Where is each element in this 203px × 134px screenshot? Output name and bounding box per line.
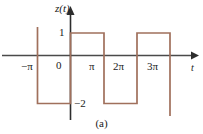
x-tick-label-two-pi: 2π (113, 61, 124, 72)
waveform-polyline (38, 33, 171, 116)
x-tick-label-three-pi: 3π (147, 61, 158, 72)
x-tick-label-minus-pi: −π (21, 61, 33, 72)
x-tick-label-zero: 0 (56, 60, 62, 71)
x-axis-label: t (191, 63, 194, 73)
x-tick-label-pi: π (89, 61, 95, 72)
y-axis-label: z(t) (55, 3, 70, 14)
x-axis-arrowhead (191, 52, 199, 60)
y-tick-label-minus-two: −2 (74, 98, 86, 109)
y-tick-label-one: 1 (59, 27, 65, 38)
figure-container: z(t) t 1 −2 −π 0 π 2π 3π (a) (0, 0, 203, 134)
figure-caption: (a) (0, 117, 203, 129)
